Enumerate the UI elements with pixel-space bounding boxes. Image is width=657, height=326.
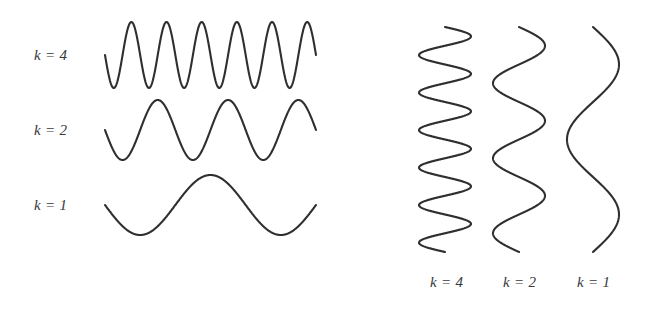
wave-modes-figure: k = 4 k = 2 k = 1 k = 4 k = 2 k = 1	[0, 0, 657, 326]
wave-curve-horizontal-k1	[105, 175, 316, 235]
wave-curve-vertical-k1	[567, 27, 619, 252]
wave-curve-vertical-k4	[419, 27, 471, 252]
label-left-k2: k = 2	[34, 122, 67, 139]
vertical-wave-group	[419, 27, 619, 252]
label-bottom-k2: k = 2	[503, 274, 536, 291]
horizontal-wave-group	[105, 22, 316, 235]
wave-curve-horizontal-k4	[105, 22, 316, 88]
label-left-k1: k = 1	[34, 197, 67, 214]
wave-curve-vertical-k2	[493, 27, 545, 252]
wave-curve-horizontal-k2	[105, 100, 316, 160]
wave-plot-canvas	[0, 0, 657, 326]
label-bottom-k1: k = 1	[577, 274, 610, 291]
label-left-k4: k = 4	[34, 47, 67, 64]
label-bottom-k4: k = 4	[430, 274, 463, 291]
